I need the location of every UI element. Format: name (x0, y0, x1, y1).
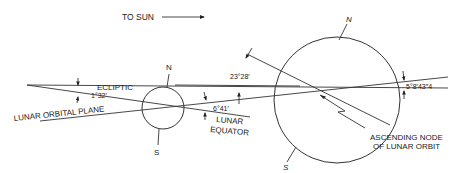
angle-arrow-top (204, 92, 206, 100)
angle-23-28-label: 23°28′ (230, 73, 250, 80)
to-sun-label: TO SUN (122, 12, 154, 22)
ascending-node-pointer (320, 95, 365, 128)
moon-south-label: S (154, 148, 159, 157)
ascending-node-label-line1: ASCENDING NODE (370, 133, 443, 142)
angle-5-8-43: 5°8′43″4 (403, 71, 432, 99)
moon-north-axis (167, 74, 169, 87)
lunar-equator-label-line1: LUNAR (216, 115, 244, 126)
lunar-geometry-diagram: TO SUN N S N S ECLIPTIC LUNAR ORBITAL PL… (0, 0, 468, 173)
lunar-equator-label-line2: EQUATOR (210, 125, 250, 137)
angle-23-28: 23°28′ (230, 48, 252, 80)
earth-north-label: N (346, 15, 352, 24)
ecliptic-label: ECLIPTIC (97, 83, 133, 92)
angle-arrow-bottom (77, 97, 78, 103)
earth-south-label: S (283, 163, 289, 172)
sun-direction: TO SUN (122, 12, 204, 22)
angle-5-8-43-label: 5°8′43″4 (406, 83, 432, 90)
angle-1-32-label: 1°32′ (91, 92, 107, 99)
earth-south-axis (287, 147, 296, 162)
moon-south-axis (158, 129, 159, 145)
lunar-orbital-plane-label: LUNAR ORBITAL PLANE (13, 105, 105, 123)
angle-arrow-top (403, 71, 404, 80)
angle-6-41-label: 6°41′ (213, 105, 229, 112)
earth-equator-line (247, 54, 390, 125)
moon: N S (142, 63, 184, 157)
moon-north-label: N (166, 63, 172, 72)
ascending-node-label-line2: OF LUNAR ORBIT (373, 142, 440, 151)
